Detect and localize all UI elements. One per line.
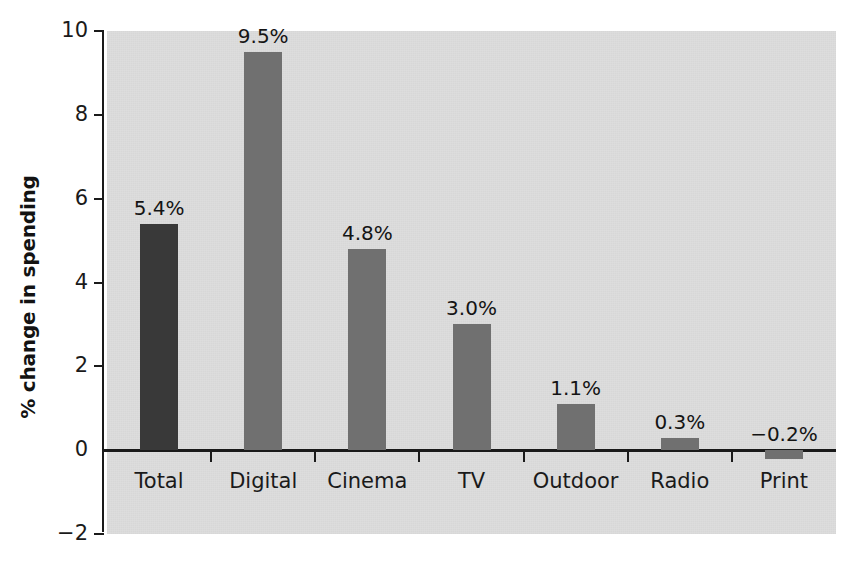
y-tick-label: 8 xyxy=(44,104,88,125)
y-tick-label: 4 xyxy=(44,272,88,293)
value-label-cinema: 4.8% xyxy=(302,223,432,243)
y-axis-title: % change in spending xyxy=(16,147,40,447)
y-tick-label: 0 xyxy=(44,439,88,460)
x-tick-mark xyxy=(210,451,212,462)
value-label-tv: 3.0% xyxy=(407,298,537,318)
y-tick-label: 2 xyxy=(44,355,88,376)
value-label-digital: 9.5% xyxy=(198,26,328,46)
bar-tv[interactable] xyxy=(453,324,491,450)
y-tick-mark xyxy=(94,30,104,32)
bar-radio[interactable] xyxy=(661,438,699,451)
y-tick-label: 10 xyxy=(44,20,88,41)
value-label-print: −0.2% xyxy=(719,424,849,444)
bar-total[interactable] xyxy=(140,224,178,450)
bar-cinema[interactable] xyxy=(348,249,386,450)
y-tick-label: −2 xyxy=(44,523,88,544)
x-tick-mark xyxy=(314,451,316,462)
y-tick-mark xyxy=(94,365,104,367)
bar-print[interactable] xyxy=(765,450,803,458)
bar-chart: % change in spending −20246810 5.4%Total… xyxy=(0,0,864,570)
y-tick-label: 6 xyxy=(44,188,88,209)
bar-outdoor[interactable] xyxy=(557,404,595,450)
y-tick-mark xyxy=(94,114,104,116)
value-label-total: 5.4% xyxy=(94,198,224,218)
x-tick-mark xyxy=(418,451,420,462)
y-tick-mark xyxy=(94,533,104,535)
x-category-label-print: Print xyxy=(704,471,864,492)
x-tick-mark xyxy=(731,451,733,462)
bar-digital[interactable] xyxy=(244,52,282,450)
value-label-outdoor: 1.1% xyxy=(511,378,641,398)
x-tick-mark xyxy=(523,451,525,462)
y-tick-mark xyxy=(94,282,104,284)
plot-area xyxy=(107,31,836,534)
x-tick-mark xyxy=(627,451,629,462)
